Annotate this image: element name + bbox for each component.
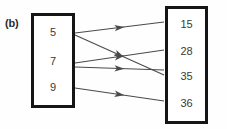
codomain-member: 28 [165, 45, 208, 57]
codomain-member: 36 [165, 97, 208, 109]
figure-canvas: (b) 579 15283536 [0, 0, 227, 129]
domain-member: 9 [31, 81, 75, 93]
codomain-member: 15 [165, 18, 208, 30]
domain-member: 7 [31, 55, 75, 67]
mapping-arrows [75, 22, 164, 101]
domain-member: 5 [31, 26, 75, 38]
codomain-member: 35 [165, 70, 208, 82]
